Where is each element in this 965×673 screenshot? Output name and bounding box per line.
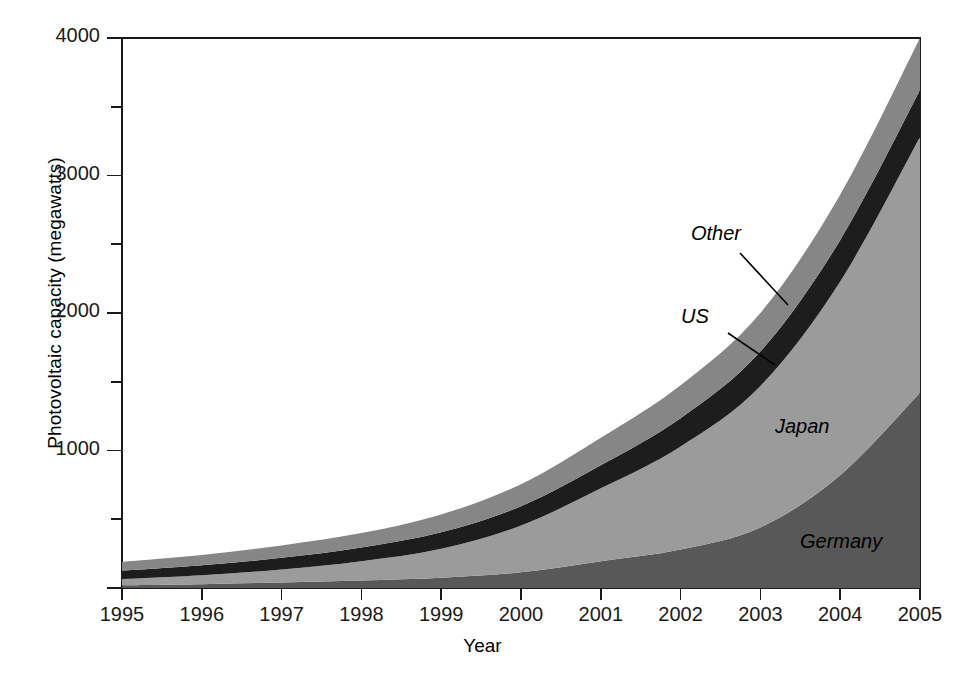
leader-line-us: [728, 333, 775, 365]
leader-lines: [0, 0, 965, 673]
leader-line-other: [740, 253, 788, 305]
chart-figure: Photovoltaic capacity (megawatts) Year 1…: [0, 0, 965, 673]
